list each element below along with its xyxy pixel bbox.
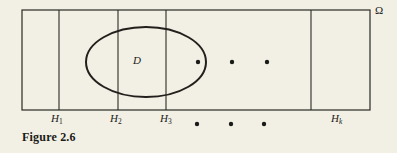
ellipsis-dot-upper-1 (196, 60, 200, 64)
ellipsis-dot-lower-1 (195, 122, 199, 126)
ellipsis-dot-lower-2 (229, 122, 233, 126)
partition-label-hk-base: H (331, 112, 339, 124)
ellipsis-dot-lower-3 (262, 122, 266, 126)
partition-label-hk: Hk (331, 113, 342, 124)
set-label-d: D (133, 55, 141, 66)
universe-label-omega: Ω (375, 5, 383, 16)
partition-label-h2-subscript: 2 (118, 117, 122, 126)
partition-label-h1-base: H (51, 112, 59, 124)
partition-label-hk-subscript: k (339, 117, 342, 126)
partition-label-h2: H2 (110, 113, 122, 124)
partition-label-h1-subscript: 1 (59, 117, 63, 126)
figure-caption: Figure 2.6 (22, 131, 76, 143)
partition-label-h3-subscript: 3 (168, 117, 172, 126)
partition-label-h3-base: H (160, 112, 168, 124)
figure-container: D Ω H1 H2 H3 Hk Figure 2.6 (0, 0, 397, 153)
ellipsis-dot-upper-3 (265, 60, 269, 64)
ellipsis-dot-upper-2 (230, 60, 234, 64)
partition-label-h1: H1 (51, 113, 63, 124)
partition-label-h2-base: H (110, 112, 118, 124)
partition-label-h3: H3 (160, 113, 172, 124)
event-ellipse-d (86, 27, 206, 97)
sample-space-rectangle (22, 10, 370, 110)
